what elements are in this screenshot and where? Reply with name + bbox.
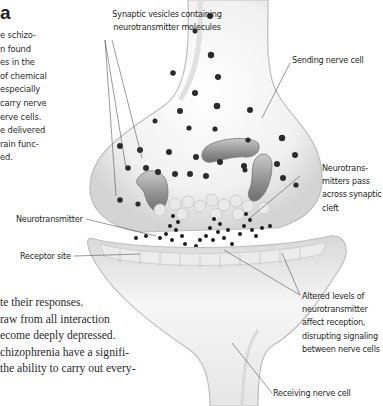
body-line: raw from all interaction [0, 312, 136, 329]
side-paragraph: e schizo- n found es in the of chemical … [0, 29, 70, 165]
body-line: the ability to carry out every- [0, 361, 136, 378]
section-heading: a [0, 3, 11, 23]
label-altered-levels: Altered levels of neurotransmitter affec… [302, 290, 380, 356]
side-line: especially [0, 83, 70, 97]
label-receptor-site: Receptor site [20, 250, 71, 263]
label-neurotransmitters-pass: Neurotrans- mitters pass across synaptic… [322, 162, 382, 215]
body-paragraph: te their responses. raw from all interac… [0, 295, 136, 378]
sending-nerve-cell-shape [90, 0, 322, 232]
label-sending-nerve-cell: Sending nerve cell [292, 54, 364, 67]
side-line: erve cells. [0, 111, 70, 125]
side-line: n found [0, 43, 70, 57]
side-line: es in the [0, 56, 70, 70]
label-synaptic-vesicles: Synaptic vesicles containing neurotransm… [92, 8, 242, 34]
label-receiving-nerve-cell: Receiving nerve cell [273, 387, 351, 400]
side-line: ed. [0, 151, 70, 165]
side-line: carry nerve [0, 97, 70, 111]
side-line: rain func- [0, 138, 70, 152]
side-line: of chemical [0, 70, 70, 84]
label-neurotransmitter: Neurotransmitter [16, 213, 83, 226]
side-line: e schizo- [0, 29, 70, 43]
body-line: ecome deeply depressed. [0, 328, 136, 345]
body-line: te their responses. [0, 295, 136, 312]
side-line: e delivered [0, 124, 70, 138]
body-line: chizophrenia have a signifi- [0, 345, 136, 362]
